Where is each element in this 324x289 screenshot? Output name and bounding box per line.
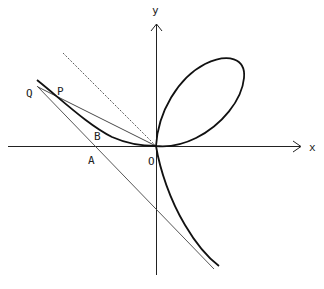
asymptote-line xyxy=(37,86,214,269)
point-a-label: A xyxy=(88,154,95,167)
folium-branch-lower xyxy=(156,146,219,266)
point-q-label: Q xyxy=(26,87,33,100)
x-axis-label: x xyxy=(309,141,316,154)
point-b-label: B xyxy=(94,130,101,143)
y-axis-label: y xyxy=(152,4,159,17)
folium-loop xyxy=(156,58,244,146)
point-p-label: P xyxy=(57,85,64,98)
folium-diagram: x y Q P B A O xyxy=(0,0,324,289)
origin-label: O xyxy=(148,155,155,168)
dashed-line xyxy=(63,53,155,145)
